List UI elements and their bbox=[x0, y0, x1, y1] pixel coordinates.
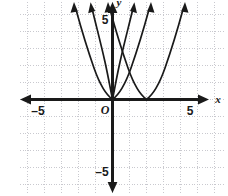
x-axis-arrow-right bbox=[198, 95, 209, 105]
y-axis-label: y bbox=[115, 0, 122, 8]
x-axis-label: x bbox=[214, 93, 221, 105]
curve-arrow-wide-origin-right bbox=[147, 2, 154, 13]
coordinate-plane-svg: –5 5 5 –5 O x y bbox=[0, 0, 228, 196]
curve-arrow-shifted-right bbox=[181, 2, 188, 13]
y-axis-arrow-down bbox=[108, 182, 118, 193]
gridlines-vertical bbox=[28, 2, 215, 194]
graph-figure: –5 5 5 –5 O x y bbox=[0, 0, 228, 196]
curve-arrow-narrow-left bbox=[88, 2, 95, 13]
x-axis-arrow-left bbox=[20, 95, 31, 105]
y-tick-label-negative-five: –5 bbox=[95, 165, 109, 179]
x-tick-label-negative-five: –5 bbox=[31, 104, 45, 118]
x-tick-label-five: 5 bbox=[187, 104, 194, 118]
y-tick-label-five: 5 bbox=[102, 13, 109, 27]
origin-label: O bbox=[101, 103, 110, 117]
curve-arrow-wide-origin-left bbox=[71, 2, 78, 13]
curve-arrow-narrow-right bbox=[130, 2, 137, 13]
